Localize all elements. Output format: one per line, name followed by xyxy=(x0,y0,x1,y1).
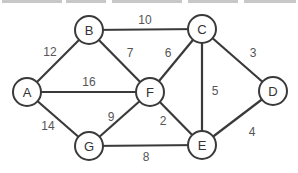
node-label: G xyxy=(84,139,94,154)
edge-weight-a-f: 16 xyxy=(82,75,96,89)
edge-weight-a-b: 12 xyxy=(43,45,57,59)
node-b: B xyxy=(75,16,103,44)
node-label: D xyxy=(268,84,277,99)
edge-weight-c-f: 6 xyxy=(165,46,172,60)
edge-weight-g-e: 8 xyxy=(143,150,150,164)
node-label: C xyxy=(197,22,206,37)
graph-diagram: 1216141076532984 ABCDEFG xyxy=(0,0,298,173)
node-a: A xyxy=(13,78,41,106)
node-d: D xyxy=(259,77,287,105)
edge-weight-e-d: 4 xyxy=(249,125,256,139)
edge-g-e xyxy=(89,145,202,146)
node-label: F xyxy=(146,85,154,100)
edge-weight-b-f: 7 xyxy=(127,46,134,60)
edge-weight-c-e: 5 xyxy=(212,84,219,98)
edge-weight-b-c: 10 xyxy=(138,13,152,27)
edge-weight-c-d: 3 xyxy=(250,46,257,60)
node-e: E xyxy=(188,131,216,159)
node-f: F xyxy=(136,78,164,106)
node-g: G xyxy=(75,132,103,160)
nodes: ABCDEFG xyxy=(13,15,287,160)
edge-weight-f-e: 2 xyxy=(160,114,167,128)
node-c: C xyxy=(188,15,216,43)
edge-b-c xyxy=(89,29,202,30)
node-label: A xyxy=(23,85,32,100)
node-label: E xyxy=(198,138,207,153)
node-label: B xyxy=(85,23,94,38)
edge-weight-f-g: 9 xyxy=(108,110,115,124)
edge-weight-a-g: 14 xyxy=(41,119,55,133)
